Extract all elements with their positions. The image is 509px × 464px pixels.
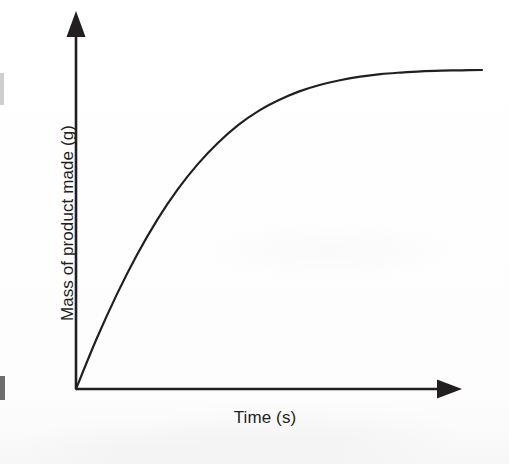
page-edge-artifact-top: [0, 73, 4, 105]
page-edge-artifact-bottom: [0, 376, 5, 400]
right-arrow-icon: [437, 380, 462, 399]
y-axis-label: Mass of product made (g): [58, 88, 78, 358]
product-mass-curve: [76, 70, 482, 389]
up-arrow-icon: [67, 11, 86, 37]
figure-canvas: Mass of product made (g) Time (s): [0, 0, 509, 464]
x-axis-label: Time (s): [185, 408, 345, 428]
